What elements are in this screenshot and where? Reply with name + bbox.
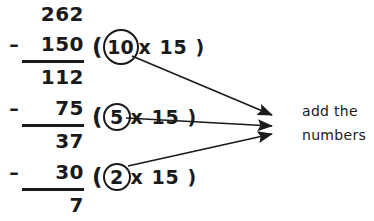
calc-value: 75: [55, 93, 84, 123]
operator-sign: –: [6, 29, 22, 59]
expression-tail: x 15 ): [139, 31, 206, 63]
calc-row: 7: [0, 190, 92, 220]
calc-row: – 75: [0, 93, 92, 123]
operator-sign: –: [6, 157, 22, 187]
calc-row: 262: [0, 0, 92, 29]
operator-sign: [6, 126, 22, 156]
worksheet-canvas: 262 – 150 112 – 75 37 – 30: [0, 0, 374, 221]
expression-row-3: (2x 15 ): [92, 159, 197, 191]
note-line-1: add the: [302, 103, 358, 119]
calc-row: – 30: [0, 157, 92, 187]
open-paren: (: [92, 161, 103, 193]
calc-row: – 150: [0, 29, 92, 59]
calc-value: 37: [55, 126, 84, 156]
expression-row-2: (5x 15 ): [92, 99, 197, 131]
circled-partial-quotient: 2: [103, 163, 131, 191]
operator-sign: [6, 190, 22, 220]
circled-partial-quotient: 5: [103, 103, 131, 131]
subtraction-column: 262 – 150 112 – 75 37 – 30: [0, 0, 92, 221]
calc-value: 30: [55, 157, 84, 187]
expression-tail: x 15 ): [131, 101, 198, 133]
calc-value: 112: [41, 62, 84, 92]
calc-row: 112: [0, 62, 92, 92]
calc-value: 262: [41, 0, 84, 29]
operator-sign: –: [6, 93, 22, 123]
note-line-2: numbers: [302, 127, 366, 143]
circled-partial-quotient: 10: [103, 29, 139, 65]
open-paren: (: [92, 31, 103, 63]
expression-tail: x 15 ): [131, 161, 198, 193]
calc-row: 37: [0, 126, 92, 156]
expression-row-1: (10x 15 ): [92, 29, 205, 61]
open-paren: (: [92, 101, 103, 133]
calc-value: 7: [70, 190, 84, 220]
calc-value: 150: [41, 29, 84, 59]
operator-sign: [6, 0, 22, 29]
operator-sign: [6, 62, 22, 92]
